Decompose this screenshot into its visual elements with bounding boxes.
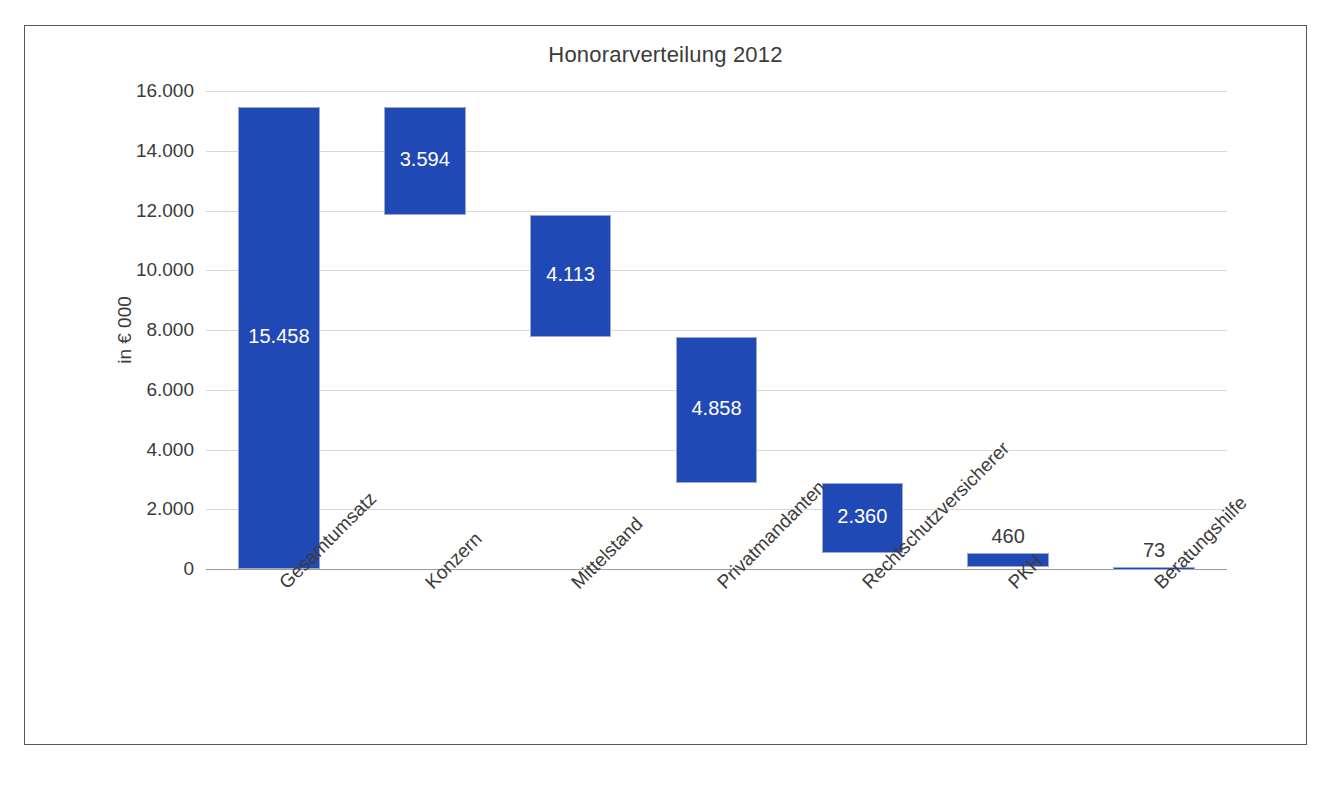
chart-frame: Honorarverteilung 2012 in € 000 16.00014… xyxy=(24,25,1307,745)
gridline xyxy=(206,211,1227,212)
y-axis-tick-label: 12.000 xyxy=(136,200,194,222)
y-axis-tick-label: 0 xyxy=(183,558,194,580)
chart-title: Honorarverteilung 2012 xyxy=(25,42,1306,68)
gridline xyxy=(206,151,1227,152)
y-axis-tick-label: 8.000 xyxy=(146,319,194,341)
axis-baseline xyxy=(206,569,1227,570)
y-axis-title: in € 000 xyxy=(113,91,137,569)
bar-value-label: 460 xyxy=(967,525,1049,548)
bar-gesamtumsatz[interactable] xyxy=(238,107,320,569)
y-axis-tick-label: 6.000 xyxy=(146,379,194,401)
chart-page: Honorarverteilung 2012 in € 000 16.00014… xyxy=(0,0,1321,794)
gridline xyxy=(206,270,1227,271)
y-axis-tick-label: 16.000 xyxy=(136,80,194,102)
y-axis-tick-label: 4.000 xyxy=(146,439,194,461)
bar-konzern[interactable] xyxy=(384,107,466,214)
y-axis-title-text: in € 000 xyxy=(114,296,136,364)
bar-privatmandanten[interactable] xyxy=(676,337,758,482)
gridline xyxy=(206,91,1227,92)
bar-mittelstand[interactable] xyxy=(530,215,612,338)
bar-rechtschutzversicherer[interactable] xyxy=(822,483,904,554)
y-axis-tick-label: 10.000 xyxy=(136,259,194,281)
y-axis-tick-label: 14.000 xyxy=(136,140,194,162)
gridline xyxy=(206,330,1227,331)
y-axis-tick-label: 2.000 xyxy=(146,498,194,520)
